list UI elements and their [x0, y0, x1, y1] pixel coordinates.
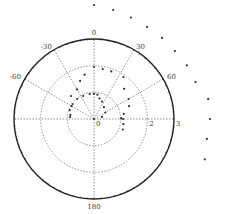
angular-grid-spoke	[54, 50, 94, 119]
theta-tick-label: -60	[10, 73, 21, 81]
data-point	[130, 16, 132, 18]
data-point	[194, 81, 196, 83]
angular-grid-spoke	[25, 79, 94, 119]
data-point	[76, 98, 78, 100]
data-point	[122, 128, 124, 130]
data-point	[123, 88, 125, 90]
data-point	[122, 118, 124, 120]
data-point	[89, 93, 91, 95]
data-points	[69, 4, 212, 160]
data-point	[104, 111, 106, 113]
data-point	[101, 116, 103, 118]
data-point	[101, 101, 103, 103]
data-point	[120, 117, 122, 119]
data-point	[209, 118, 211, 120]
data-point	[110, 70, 112, 72]
data-point	[128, 105, 130, 107]
data-point	[186, 64, 188, 66]
data-point	[79, 80, 81, 82]
data-point	[206, 138, 208, 140]
data-point	[207, 98, 209, 100]
data-point	[70, 95, 72, 97]
r-tick-label: 2	[149, 120, 153, 128]
data-point	[96, 94, 98, 96]
data-point	[93, 66, 95, 68]
data-point	[69, 116, 71, 118]
data-point	[93, 118, 95, 120]
angular-grid-spoke	[94, 50, 134, 119]
data-point	[112, 9, 114, 11]
data-point	[72, 103, 74, 105]
r-tick-label: 0	[96, 120, 100, 128]
data-point	[128, 98, 130, 100]
data-point	[122, 76, 124, 78]
data-point	[204, 158, 206, 160]
r-tick-label: 3	[176, 120, 180, 128]
data-point	[93, 4, 95, 6]
data-point	[122, 123, 124, 125]
data-point	[82, 95, 84, 97]
data-point	[76, 88, 78, 90]
data-point	[123, 113, 125, 115]
data-point	[93, 93, 95, 95]
theta-tick-label: 60	[167, 73, 176, 81]
data-point	[103, 106, 105, 108]
theta-tick-label: 180	[87, 203, 100, 211]
data-point	[98, 97, 100, 99]
data-point	[146, 26, 148, 28]
data-point	[84, 74, 86, 76]
theta-tick-label: 0	[92, 29, 96, 37]
polar-chart: 03060-30-60180023	[0, 0, 226, 214]
data-point	[174, 50, 176, 52]
data-point	[69, 114, 71, 116]
data-point	[69, 109, 71, 111]
axis-labels: 03060-30-60180023	[10, 29, 181, 212]
data-point	[71, 105, 73, 107]
data-point	[102, 68, 104, 70]
data-point	[161, 37, 163, 39]
theta-tick-label: -30	[41, 43, 52, 51]
theta-tick-label: 30	[136, 43, 145, 51]
